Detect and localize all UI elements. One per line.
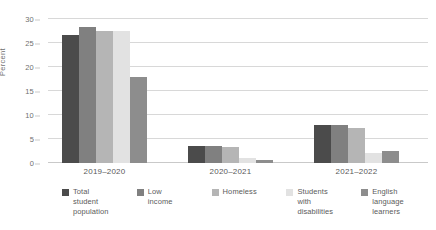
legend-item[interactable]: Lowincome — [137, 187, 212, 207]
bar[interactable] — [205, 146, 222, 163]
legend-swatch-icon — [137, 189, 144, 196]
bar[interactable] — [331, 125, 348, 163]
legend-item-label: Studentswithdisabilities — [297, 187, 333, 217]
y-tick-label-10: 10 — [8, 111, 34, 120]
y-tick-label-25: 25 — [8, 39, 34, 48]
bar[interactable] — [348, 128, 365, 163]
bar[interactable] — [62, 35, 79, 163]
y-tick-label-15: 15 — [8, 87, 34, 96]
legend-swatch-icon — [286, 189, 293, 196]
bar[interactable] — [256, 160, 273, 163]
y-axis-ticks: 051015202530 — [0, 19, 34, 163]
y-tick-label-0: 0 — [8, 159, 34, 168]
bar-group-2021-2022 — [314, 19, 399, 163]
legend-swatch-icon — [361, 189, 368, 196]
bar[interactable] — [79, 27, 96, 163]
legend-item-label: Homeless — [223, 187, 257, 197]
x-axis-label: 2020–2021 — [170, 167, 291, 176]
legend-swatch-icon — [62, 189, 69, 196]
bars-layer — [48, 19, 428, 163]
y-tick-label-20: 20 — [8, 63, 34, 72]
bar[interactable] — [382, 151, 399, 163]
bar[interactable] — [239, 158, 256, 163]
bar-group-2020-2021 — [188, 19, 273, 163]
y-tick-mark-25 — [35, 43, 40, 44]
legend-item[interactable]: Studentswithdisabilities — [286, 187, 361, 217]
x-axis-labels: 2019–20202020–20212021–2022 — [48, 167, 428, 181]
y-tick-mark-15 — [35, 91, 40, 92]
legend-item[interactable]: Englishlanguagelearners — [361, 187, 436, 217]
y-tick-mark-5 — [35, 139, 40, 140]
bar[interactable] — [222, 147, 239, 163]
legend-item-label: Totalstudentpopulation — [73, 187, 109, 217]
legend-item-label: Englishlanguagelearners — [372, 187, 404, 217]
y-tick-label-30: 30 — [8, 15, 34, 24]
bar[interactable] — [96, 31, 113, 163]
y-tick-mark-30 — [35, 19, 40, 20]
x-axis-label: 2021–2022 — [296, 167, 417, 176]
y-tick-mark-10 — [35, 115, 40, 116]
legend-item[interactable]: Totalstudentpopulation — [62, 187, 137, 217]
bar[interactable] — [130, 77, 147, 163]
legend-item-label: Lowincome — [148, 187, 173, 207]
y-tick-mark-0 — [35, 163, 40, 164]
bar-group-2019-2020 — [62, 19, 147, 163]
bar[interactable] — [113, 31, 130, 163]
legend-item[interactable]: Homeless — [212, 187, 287, 197]
y-tick-label-5: 5 — [8, 135, 34, 144]
chart-legend: TotalstudentpopulationLowincomeHomelessS… — [62, 187, 436, 227]
bar[interactable] — [314, 125, 331, 163]
bar[interactable] — [365, 153, 382, 163]
x-axis-label: 2019–2020 — [44, 167, 165, 176]
bar[interactable] — [188, 146, 205, 163]
bar-chart: Percent 051015202530 2019–20202020–20212… — [0, 0, 436, 230]
y-tick-mark-20 — [35, 67, 40, 68]
legend-swatch-icon — [212, 189, 219, 196]
